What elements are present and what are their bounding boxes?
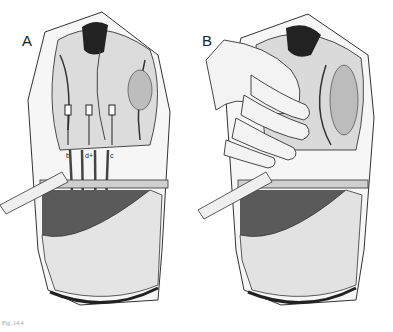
panel-a: A b d+ c	[0, 0, 196, 318]
drain-label-c: c	[110, 152, 114, 159]
figure-caption: Fig. 14.4	[2, 320, 24, 326]
surgical-illustration-b	[196, 0, 393, 318]
drain-label-d: d+	[85, 152, 93, 159]
panel-b-label: B	[202, 32, 212, 49]
panel-b: B	[196, 0, 393, 318]
panel-a-label: A	[22, 32, 32, 49]
